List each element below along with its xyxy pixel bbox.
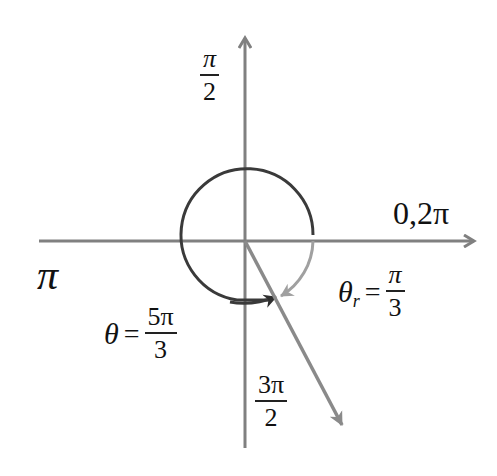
label-zero-2pi: 0,2π [393, 197, 449, 229]
label-theta: θ= 5π 3 [104, 304, 177, 363]
unit-circle-diagram [0, 0, 497, 476]
label-3pi-over-2: 3π 2 [255, 372, 287, 431]
label-theta-r: θr= π 3 [338, 262, 405, 321]
reference-arc [281, 241, 313, 296]
label-pi: π [37, 254, 58, 296]
label-pi-over-2: π 2 [200, 46, 219, 105]
theta-arc [181, 169, 313, 300]
